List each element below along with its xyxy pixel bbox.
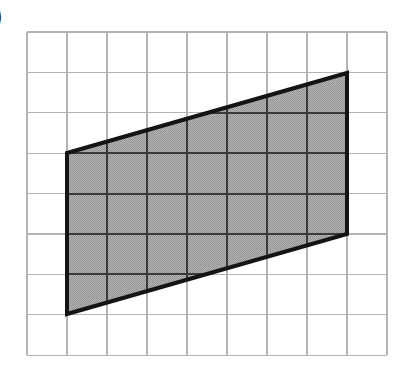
geometry-figure: ) [0, 0, 403, 365]
grid-shape-svg [0, 0, 403, 365]
